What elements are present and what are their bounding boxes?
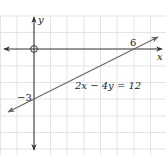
y-axis-label: y xyxy=(37,14,44,25)
coordinate-plane: y x 6 −3 2x − 4y = 12 xyxy=(0,0,166,155)
equation-label: 2x − 4y = 12 xyxy=(74,80,141,91)
y-intercept-label: −3 xyxy=(17,92,32,103)
x-axis-label: x xyxy=(157,51,163,62)
x-intercept-label: 6 xyxy=(130,37,136,48)
